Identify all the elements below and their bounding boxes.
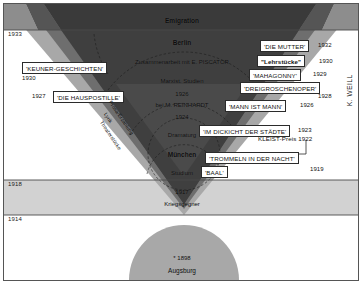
work-year-lehrstuecke: 1930 [319, 58, 333, 64]
work-year-keuner-geschichten: 1930 [22, 75, 36, 81]
diagram-stage: 1933 1918 1914 Emigration Berlin Zusamme… [0, 0, 364, 285]
diagram-frame: 1933 1918 1914 Emigration Berlin Zusamme… [3, 3, 359, 281]
year-tick-1918: 1918 [8, 181, 22, 187]
weill-vertical-label: K. WEILL [347, 74, 353, 106]
birth-year-label: * 1898 [173, 255, 190, 261]
work-year-dreigroschenoper: 1928 [318, 93, 332, 99]
work-box-lehrstuecke[interactable]: "Lehrstücke" [257, 55, 305, 67]
work-box-trommeln-in-der-nacht[interactable]: 'TROMMELN IN DER NACHT' [205, 152, 299, 164]
center-year-1924: 1924 [175, 114, 188, 120]
work-box-die-mutter[interactable]: 'DIE MUTTER' [260, 40, 309, 52]
work-box-mann-ist-mann[interactable]: 'MANN IST MANN' [225, 100, 286, 112]
work-box-keuner-geschichten[interactable]: 'KEUNER-GESCHICHTEN' [22, 62, 107, 74]
center-year-1917: 1917 [175, 189, 188, 195]
center-label-emigration: Emigration [165, 18, 199, 25]
work-year-mann-ist-mann: 1926 [300, 102, 314, 108]
year-tick-1914: 1914 [8, 216, 22, 222]
work-year-die-mutter: 1932 [318, 42, 332, 48]
work-year-mahagonny: 1929 [313, 71, 327, 77]
center-label-kriegsgegner: Kriegsgegner [164, 201, 200, 207]
birthplace-label: Augsburg [168, 268, 196, 275]
work-year-im-dickicht-der-staedte: 1923 [298, 127, 312, 133]
kleist-prize-label: KLEIST-Preis 1922 [258, 136, 312, 142]
center-label-dramaturg: Dramaturg [168, 132, 196, 138]
center-label-studium: Studium [171, 170, 193, 176]
center-label-berlin: Berlin [173, 40, 191, 47]
year-tick-1933: 1933 [8, 31, 22, 37]
work-year-die-hauspostille: 1927 [32, 93, 46, 99]
work-box-baal[interactable]: 'BAAL' [201, 166, 228, 178]
center-label-piscator: Zusammenarbeit mit E. PISCATOR [135, 59, 229, 65]
center-label-reinhardt: bei M. REINHARDT [155, 102, 208, 108]
work-year-trommeln-in-der-nacht: 1919 [310, 166, 324, 172]
center-label-muenchen: München [168, 152, 197, 159]
work-box-dreigroschenoper[interactable]: 'DREIGROSCHENOPER' [240, 82, 320, 94]
work-box-mahagonny[interactable]: 'MAHAGONNY' [249, 69, 301, 81]
center-label-marxist: Marxist. Studien [160, 78, 203, 84]
center-year-1926: 1926 [175, 91, 188, 97]
